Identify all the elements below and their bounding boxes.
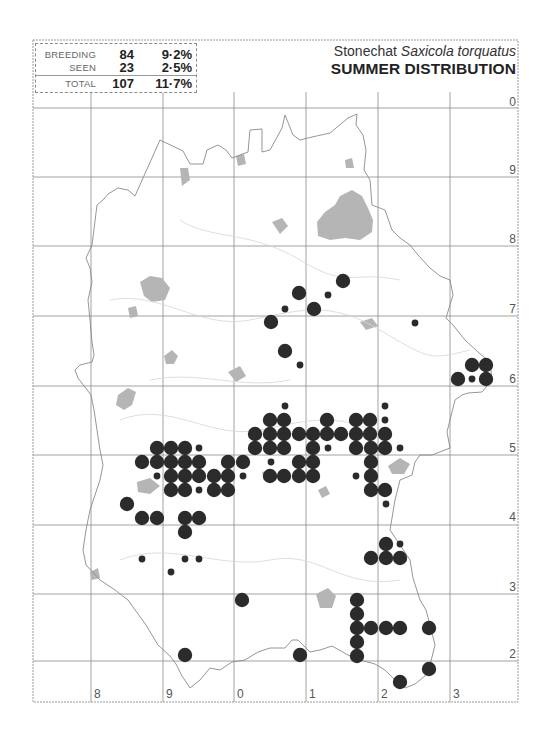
breeding-dot xyxy=(320,427,334,441)
breeding-dot xyxy=(277,441,291,455)
seen-dot xyxy=(382,403,389,410)
breeding-dot xyxy=(349,413,363,427)
seen-dot xyxy=(397,445,404,452)
breeding-dot xyxy=(350,635,364,649)
breeding-dot xyxy=(178,511,192,525)
map-title: Stonechat Saxicola torquatus SUMMER DIST… xyxy=(331,43,516,78)
breeding-dot xyxy=(178,455,192,469)
breeding-dot xyxy=(320,413,334,427)
breeding-dot xyxy=(350,593,364,607)
y-label: 2 xyxy=(509,647,516,661)
seen-dot xyxy=(382,417,389,424)
seen-dot xyxy=(282,403,289,410)
breeding-dot xyxy=(307,302,321,316)
y-label: 7 xyxy=(509,302,516,316)
breeding-dot xyxy=(263,413,277,427)
y-label: 9 xyxy=(509,163,516,177)
stats-row-total: TOTAL 107 11·7% xyxy=(36,76,196,92)
breeding-dot xyxy=(192,455,206,469)
breeding-dot xyxy=(192,469,206,483)
breeding-dot xyxy=(164,469,178,483)
breeding-dot xyxy=(364,455,378,469)
breeding-dot xyxy=(364,469,378,483)
x-label: 1 xyxy=(309,687,316,701)
breeding-dot xyxy=(150,455,164,469)
species-name: Stonechat Saxicola torquatus xyxy=(331,43,516,59)
seen-dot xyxy=(383,501,390,508)
seen-dot xyxy=(139,556,146,563)
stats-count: 107 xyxy=(108,76,134,91)
seen-dot xyxy=(168,569,175,576)
map-subtitle: SUMMER DISTRIBUTION xyxy=(331,60,516,78)
breeding-dot xyxy=(378,441,392,455)
common-name: Stonechat xyxy=(334,43,397,59)
seen-dot xyxy=(469,376,476,383)
breeding-dot xyxy=(292,427,306,441)
breeding-dot xyxy=(277,427,291,441)
seen-dot xyxy=(412,320,419,327)
x-label: 3 xyxy=(453,687,460,701)
seen-dot xyxy=(182,556,189,563)
breeding-dot xyxy=(306,469,320,483)
stats-row-seen: SEEN 23 2·5% xyxy=(36,60,196,76)
seen-dot xyxy=(268,459,275,466)
breeding-dot xyxy=(178,483,192,497)
breeding-dot xyxy=(207,483,221,497)
breeding-dot xyxy=(379,621,393,635)
breeding-dot xyxy=(292,455,306,469)
y-label: 3 xyxy=(509,580,516,594)
breeding-dot xyxy=(150,441,164,455)
seen-dot xyxy=(325,445,332,452)
breeding-dot xyxy=(221,469,235,483)
breeding-dot xyxy=(164,455,178,469)
y-label: 6 xyxy=(509,372,516,386)
y-label: 4 xyxy=(509,510,516,524)
breeding-dot xyxy=(278,344,292,358)
breeding-dot xyxy=(263,427,277,441)
breeding-dot xyxy=(363,413,377,427)
breeding-dot xyxy=(422,621,436,635)
breeding-dot xyxy=(120,497,134,511)
x-label: 8 xyxy=(94,687,101,701)
breeding-dot xyxy=(364,441,378,455)
breeding-dot xyxy=(207,469,221,483)
stats-label: SEEN xyxy=(69,62,96,73)
seen-dot xyxy=(297,362,304,369)
breeding-dot xyxy=(235,593,249,607)
breeding-dot xyxy=(293,648,307,662)
breeding-dot xyxy=(178,525,192,539)
breeding-dot xyxy=(178,469,192,483)
breeding-dot xyxy=(393,675,407,689)
breeding-dot xyxy=(164,441,178,455)
breeding-dot xyxy=(465,358,479,372)
breeding-dot xyxy=(277,413,291,427)
seen-dot xyxy=(196,445,203,452)
breeding-dot xyxy=(451,372,465,386)
breeding-dot xyxy=(277,469,291,483)
breeding-dot xyxy=(379,551,393,565)
breeding-dot xyxy=(363,427,377,441)
scientific-name: Saxicola torquatus xyxy=(401,43,516,59)
breeding-dot xyxy=(378,427,392,441)
breeding-dot xyxy=(178,648,192,662)
breeding-dot xyxy=(306,427,320,441)
breeding-dot xyxy=(349,441,363,455)
breeding-dot xyxy=(263,469,277,483)
breeding-dot xyxy=(306,455,320,469)
seen-dot xyxy=(325,292,332,299)
breeding-dot xyxy=(150,511,164,525)
stats-label: TOTAL xyxy=(65,78,96,89)
breeding-dot xyxy=(378,483,392,497)
breeding-dot xyxy=(364,621,378,635)
breeding-dot xyxy=(248,427,262,441)
stats-count: 23 xyxy=(108,60,134,75)
breeding-dot xyxy=(393,621,407,635)
breeding-dot xyxy=(264,315,278,329)
breeding-dot xyxy=(192,511,206,525)
x-label: 9 xyxy=(166,687,173,701)
breeding-dot xyxy=(221,455,235,469)
stats-percent: 2·5% xyxy=(162,60,192,75)
breeding-dot xyxy=(479,372,493,386)
seen-dot xyxy=(196,556,203,563)
seen-dot xyxy=(353,473,360,480)
